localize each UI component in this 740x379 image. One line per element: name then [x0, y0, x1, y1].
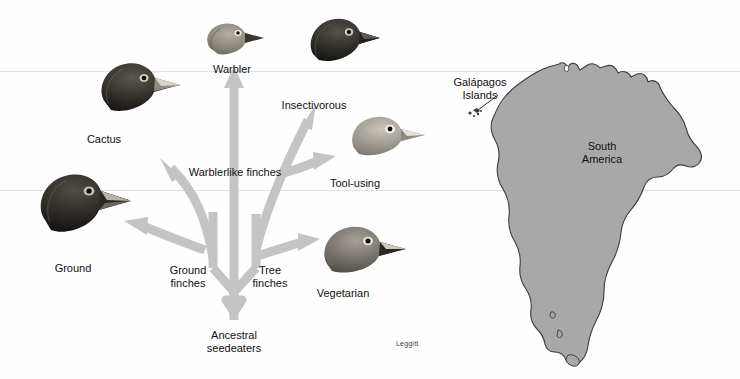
south-america-landmass: [491, 63, 701, 366]
south-america-map: [0, 0, 740, 379]
label-south-america: South America: [556, 140, 648, 166]
label-galapagos-islands: Galápagos Islands: [430, 76, 530, 102]
galapagos-islands-dots: [468, 108, 482, 117]
finch-adaptive-radiation-figure: Warbler Cactus Insectivorous Tool-using …: [0, 0, 740, 379]
